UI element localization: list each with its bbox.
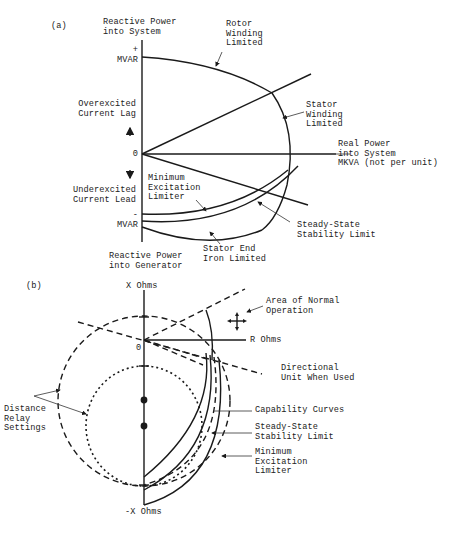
- directional-unit-label: Directional Unit When Used: [281, 364, 355, 383]
- minus-mvar-label: - MVAR: [100, 211, 138, 230]
- sssl-label-b: Steady-State Stability Limit: [255, 423, 334, 442]
- upper-power-factor-line: [142, 74, 311, 154]
- real-power-axis-label: Real Power into System MKVA (not per uni…: [338, 140, 438, 169]
- panel-a-tag: (a): [51, 22, 67, 32]
- panel-b-graphics: [34, 289, 263, 505]
- end-iron-label: Stator End Iron Limited: [203, 245, 266, 264]
- plus-mvar-label: + MVAR: [100, 46, 138, 65]
- axis-dot: [141, 397, 148, 404]
- diagram-graphics: [0, 0, 458, 533]
- origin-label: 0: [120, 150, 138, 160]
- x-ohms-label: X Ohms: [126, 282, 158, 292]
- move-arrows-icon: [227, 312, 247, 331]
- stator-winding-curve: [262, 93, 290, 230]
- normal-operation-arc: [206, 310, 212, 360]
- overexcited-label: Overexcited Current Lag: [50, 100, 136, 119]
- end-iron-curve: [142, 227, 262, 240]
- neg-x-ohms-label: -X Ohms: [125, 508, 162, 518]
- distance-relay-label: Distance Relay Settings: [4, 405, 46, 434]
- rotor-winding-curve: [142, 57, 272, 93]
- rotor-winding-label: Rotor Winding Limited: [226, 20, 263, 49]
- panel-a-graphics: [130, 40, 350, 244]
- stator-winding-label: Stator Winding Limited: [306, 101, 343, 130]
- panel-b-tag: (b): [26, 282, 42, 292]
- r-ohms-label: R Ohms: [250, 336, 282, 346]
- mel-label-a: Minimum Excitation Limiter: [148, 174, 201, 203]
- generator-capability-diagram: (a) Reactive Power into System Rotor Win…: [0, 0, 458, 533]
- area-normal-line: [144, 289, 245, 340]
- area-normal-operation-label: Area of Normal Operation: [266, 297, 340, 316]
- y-axis-top-label: Reactive Power into System: [103, 18, 177, 37]
- capability-curve-1: [144, 353, 207, 477]
- directional-unit-line: [78, 322, 262, 374]
- y-axis-bottom-label: Reactive Power into Generator: [109, 252, 183, 271]
- mel-label-b: Minimum Excitation Limiter: [255, 448, 308, 477]
- axis-dot: [141, 423, 148, 430]
- underexcited-label: Underexcited Current Lead: [50, 186, 136, 205]
- sssl-label-a: Steady-State Stability Limit: [297, 221, 376, 240]
- capability-curves-label: Capability Curves: [255, 406, 344, 416]
- origin-label-b: 0: [136, 344, 141, 354]
